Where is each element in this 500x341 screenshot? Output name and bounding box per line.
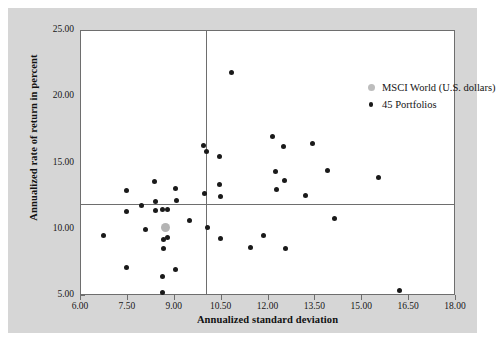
data-point-portfolio bbox=[204, 149, 209, 154]
data-point-portfolio bbox=[124, 188, 129, 193]
data-point-portfolio bbox=[143, 227, 148, 232]
data-point-portfolio bbox=[325, 168, 330, 173]
data-point-portfolio bbox=[153, 199, 158, 204]
x-tick-label: 6.00 bbox=[56, 302, 104, 312]
data-point-portfolio bbox=[217, 154, 222, 159]
data-point-portfolio bbox=[283, 246, 288, 251]
data-point-portfolio bbox=[205, 225, 210, 230]
legend-item-portfolios: 45 Portfolios bbox=[363, 96, 500, 113]
legend-item-msci-world: MSCI World (U.S. dollars) bbox=[363, 79, 500, 96]
plot-area: MSCI World (U.S. dollars) 45 Portfolios bbox=[80, 30, 455, 295]
legend-label-portfolios: 45 Portfolios bbox=[379, 99, 437, 110]
data-point-portfolio bbox=[274, 187, 279, 192]
gray-dot-icon bbox=[363, 84, 379, 91]
data-point-portfolio bbox=[160, 274, 165, 279]
data-point-portfolio bbox=[201, 143, 206, 148]
black-dot-icon bbox=[363, 102, 379, 107]
data-point-portfolio bbox=[174, 198, 179, 203]
legend-label-msci-world: MSCI World (U.S. dollars) bbox=[379, 82, 496, 93]
data-point-portfolio bbox=[165, 207, 170, 212]
x-tick-mark bbox=[80, 295, 81, 300]
data-point-portfolio bbox=[270, 134, 275, 139]
x-tick-label: 18.00 bbox=[431, 302, 479, 312]
x-tick-mark bbox=[174, 295, 175, 300]
data-point-portfolio bbox=[273, 169, 278, 174]
data-point-msci-world bbox=[161, 223, 170, 232]
data-point-portfolio bbox=[139, 203, 144, 208]
data-point-portfolio bbox=[173, 267, 178, 272]
data-point-portfolio bbox=[229, 70, 234, 75]
data-point-portfolio bbox=[187, 218, 192, 223]
x-tick-label: 7.50 bbox=[103, 302, 151, 312]
x-tick-label: 16.50 bbox=[384, 302, 432, 312]
y-axis-title: Annualized rate of return in percent bbox=[28, 23, 39, 253]
data-point-portfolio bbox=[165, 235, 170, 240]
x-axis-title: Annualized standard deviation bbox=[80, 314, 455, 325]
x-tick-label: 12.00 bbox=[244, 302, 292, 312]
x-tick-mark bbox=[408, 295, 409, 300]
data-point-portfolio bbox=[160, 207, 165, 212]
data-point-portfolio bbox=[152, 179, 157, 184]
data-point-portfolio bbox=[160, 290, 165, 295]
x-tick-mark bbox=[455, 295, 456, 300]
x-tick-mark bbox=[221, 295, 222, 300]
data-point-portfolio bbox=[332, 216, 337, 221]
data-point-portfolio bbox=[153, 208, 158, 213]
data-point-portfolio bbox=[161, 246, 166, 251]
horizontal-reference-line bbox=[81, 204, 454, 205]
data-point-portfolio bbox=[261, 233, 266, 238]
data-point-portfolio bbox=[217, 182, 222, 187]
data-point-portfolio bbox=[397, 288, 402, 293]
x-tick-label: 10.50 bbox=[197, 302, 245, 312]
data-point-portfolio bbox=[281, 144, 286, 149]
data-point-portfolio bbox=[218, 194, 223, 199]
x-tick-mark bbox=[361, 295, 362, 300]
data-point-portfolio bbox=[173, 186, 178, 191]
data-point-portfolio bbox=[124, 209, 129, 214]
x-tick-mark bbox=[314, 295, 315, 300]
x-tick-mark bbox=[127, 295, 128, 300]
x-tick-label: 9.00 bbox=[150, 302, 198, 312]
data-point-portfolio bbox=[248, 245, 253, 250]
y-tick-label: 5.00 bbox=[32, 290, 74, 300]
data-point-portfolio bbox=[218, 236, 223, 241]
chart-legend: MSCI World (U.S. dollars) 45 Portfolios bbox=[363, 79, 500, 113]
x-tick-label: 15.00 bbox=[337, 302, 385, 312]
data-point-portfolio bbox=[303, 193, 308, 198]
vertical-reference-line bbox=[206, 31, 207, 294]
data-point-portfolio bbox=[310, 141, 315, 146]
x-tick-mark bbox=[268, 295, 269, 300]
data-point-portfolio bbox=[101, 233, 106, 238]
data-point-portfolio bbox=[376, 175, 381, 180]
x-tick-label: 13.50 bbox=[290, 302, 338, 312]
data-point-portfolio bbox=[282, 178, 287, 183]
data-point-portfolio bbox=[124, 265, 129, 270]
